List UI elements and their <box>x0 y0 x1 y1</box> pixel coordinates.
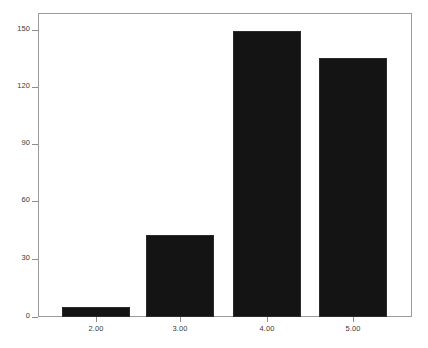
x-axis-tick-mark <box>180 317 181 322</box>
y-axis-tick-label: 30 <box>4 254 30 262</box>
x-axis-tick-label: 3.00 <box>150 325 210 333</box>
x-axis-tick-label: 5.00 <box>323 325 383 333</box>
x-axis-tick-mark <box>96 317 97 322</box>
bar-3.00 <box>146 235 214 317</box>
y-axis-tick-group: 120 <box>0 82 30 92</box>
y-axis-tick-label: 60 <box>4 196 30 204</box>
bar-5.00 <box>319 58 387 317</box>
x-axis-tick-label: 4.00 <box>237 325 297 333</box>
y-axis: 150 120 90 60 30 0 <box>0 0 38 348</box>
y-axis-tick-label: 120 <box>4 82 30 90</box>
y-axis-tick-group: 150 <box>0 25 30 35</box>
bar-chart: 150 120 90 60 30 0 2.00 <box>0 0 428 348</box>
x-axis-tick-label: 2.00 <box>66 325 126 333</box>
y-axis-tick-label: 90 <box>4 139 30 147</box>
y-axis-tick-group: 90 <box>0 139 30 149</box>
x-axis-tick-mark <box>353 317 354 322</box>
y-axis-tick-group: 30 <box>0 254 30 264</box>
y-axis-tick-label: 150 <box>4 25 30 33</box>
x-axis-tick-mark <box>267 317 268 322</box>
bar-2.00 <box>62 307 130 317</box>
bar-4.00 <box>233 31 301 317</box>
plot-area <box>39 14 412 317</box>
x-axis: 2.00 3.00 4.00 5.00 <box>0 317 428 348</box>
y-axis-tick-group: 60 <box>0 196 30 206</box>
